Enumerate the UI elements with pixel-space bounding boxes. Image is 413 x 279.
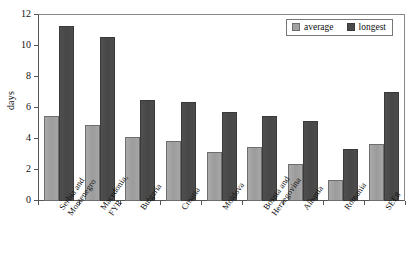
- y-axis-title: days: [5, 77, 16, 125]
- legend-swatch-average-icon: [292, 23, 300, 31]
- legend-entry-average: average: [292, 22, 334, 32]
- legend: average longest: [286, 19, 393, 36]
- y-tick-mark: [34, 76, 38, 77]
- legend-label-longest: longest: [359, 22, 386, 32]
- x-tick-mark: [38, 201, 39, 205]
- y-tick-mark: [34, 14, 38, 15]
- y-tick-label: 12: [21, 8, 31, 19]
- bar-average: [328, 180, 343, 201]
- x-axis-labels: Serbia and MontenegroMacedonia, FYRBulga…: [38, 206, 405, 279]
- x-tick-mark: [364, 201, 365, 205]
- x-tick-mark: [405, 201, 406, 205]
- legend-swatch-longest-icon: [347, 23, 355, 31]
- legend-entry-longest: longest: [347, 22, 386, 32]
- y-tick-mark: [34, 169, 38, 170]
- legend-label-average: average: [304, 22, 334, 32]
- y-tick-label: 2: [26, 163, 31, 174]
- y-tick-label: 0: [26, 194, 31, 205]
- y-tick-label: 6: [26, 101, 31, 112]
- y-tick-label: 4: [26, 132, 31, 143]
- y-tick-mark: [34, 45, 38, 46]
- x-tick-mark: [160, 201, 161, 205]
- x-tick-mark: [242, 201, 243, 205]
- y-tick-label: 10: [21, 39, 31, 50]
- x-tick-mark: [201, 201, 202, 205]
- y-tick-label: 8: [26, 70, 31, 81]
- y-tick-mark: [34, 107, 38, 108]
- bar-chart: days 024681012 Serbia and MontenegroMace…: [0, 0, 413, 279]
- y-tick-mark: [34, 138, 38, 139]
- x-tick-mark: [323, 201, 324, 205]
- bar-longest: [59, 26, 74, 201]
- bar-average: [44, 116, 59, 201]
- bar-group: [39, 15, 80, 201]
